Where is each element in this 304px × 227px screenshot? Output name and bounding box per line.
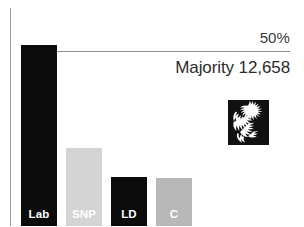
bar-label-snp: SNP: [72, 209, 96, 227]
bar-snp: SNP: [66, 148, 102, 226]
bar-label-ld: LD: [121, 209, 137, 227]
bar-lab: Lab: [21, 45, 57, 226]
labour-rose-icon: [228, 100, 269, 145]
election-result-bar-chart: 50% Majority 12,658 Lab SNP LD C: [0, 0, 304, 226]
majority-label: Majority 12,658: [175, 58, 290, 78]
bar-ld: LD: [111, 177, 147, 226]
bar-label-c: C: [170, 209, 179, 227]
bar-c: C: [156, 178, 192, 226]
bar-label-lab: Lab: [28, 209, 49, 227]
y-axis-line: [10, 8, 11, 226]
threshold-label: 50%: [260, 29, 290, 46]
threshold-line-50-percent: [57, 51, 290, 52]
